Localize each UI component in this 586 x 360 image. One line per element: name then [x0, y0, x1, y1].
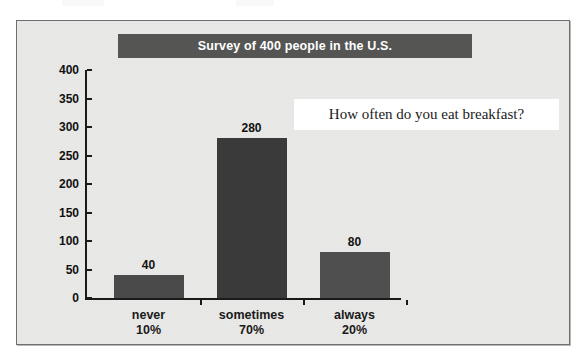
plot-area: 400350300250200150100500 4028080 never10…	[17, 21, 571, 346]
category-label: sometimes70%	[200, 308, 303, 338]
bar	[320, 252, 390, 298]
bar-value-label: 80	[320, 235, 390, 249]
x-axis-tick	[406, 300, 408, 305]
bar	[114, 275, 184, 298]
cropped-text-remnant-left	[62, 0, 104, 6]
question-text: How often do you eat breakfast?	[329, 106, 524, 123]
bar-value-label: 280	[217, 121, 287, 135]
bar-value-label: 40	[114, 258, 184, 272]
category-label: never10%	[97, 308, 200, 338]
question-callout-box: How often do you eat breakfast?	[294, 99, 559, 130]
bars-layer	[17, 21, 571, 298]
category-percent: 70%	[200, 323, 303, 338]
category-name: never	[132, 308, 165, 322]
bar	[217, 138, 287, 298]
x-axis-tick	[303, 300, 305, 305]
category-percent: 20%	[303, 323, 406, 338]
chart-title-band: Survey of 400 people in the U.S.	[118, 34, 472, 58]
x-axis-tick	[200, 300, 202, 305]
chart-screenshot: Survey of 400 people in the U.S. How oft…	[0, 0, 586, 360]
chart-frame: Survey of 400 people in the U.S. How oft…	[16, 20, 570, 345]
category-name: always	[334, 308, 375, 322]
category-percent: 10%	[97, 323, 200, 338]
chart-title: Survey of 400 people in the U.S.	[198, 39, 392, 53]
x-axis-line	[85, 298, 401, 300]
category-name: sometimes	[219, 308, 284, 322]
category-label: always20%	[303, 308, 406, 338]
cropped-text-remnant-right	[236, 0, 274, 6]
